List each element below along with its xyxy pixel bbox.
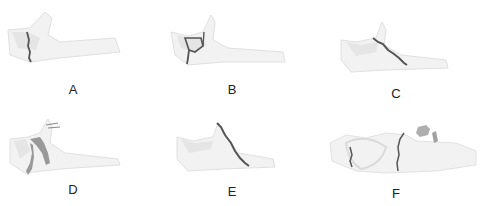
bone-illustration-e: [163, 103, 326, 206]
panel-c: C: [326, 0, 489, 103]
bone-illustration-f: [326, 103, 489, 206]
panel-b: B: [163, 0, 326, 103]
panel-e: E: [163, 103, 326, 206]
bone-fragment-f: [416, 125, 430, 137]
panel-label-d: D: [63, 182, 83, 197]
panel-label-f: F: [386, 186, 406, 201]
panel-f: F: [326, 103, 489, 206]
panel-label-b: B: [222, 82, 242, 97]
bone-illustration-c: [326, 0, 489, 103]
bone-illustration-b: [163, 0, 326, 103]
panel-d: D: [0, 103, 163, 206]
panel-label-a: A: [63, 82, 83, 97]
panel-label-c: C: [386, 86, 406, 101]
panel-a: A: [0, 0, 163, 103]
panel-label-e: E: [222, 184, 242, 199]
